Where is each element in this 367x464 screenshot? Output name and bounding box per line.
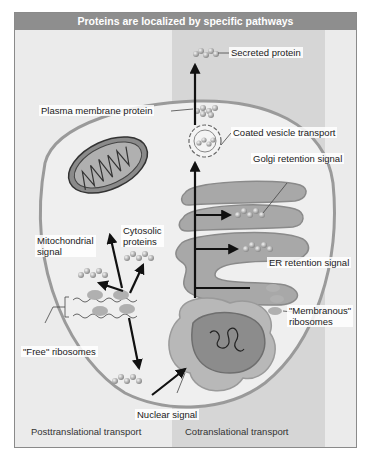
label-membranous-line1: "Membranous"	[289, 305, 351, 316]
label-nuclear-signal: Nuclear signal	[135, 409, 199, 420]
figure-frame: Proteins are localized by specific pathw…	[14, 12, 357, 448]
label-mitochondrial-signal: Mitochondrial signal	[35, 235, 96, 257]
label-mitochondrial-line2: signal	[37, 246, 94, 257]
label-membranous-ribosomes: "Membranous" ribosomes	[287, 305, 353, 327]
label-secreted-protein: Secreted protein	[229, 47, 303, 58]
label-plasma-membrane-protein: Plasma membrane protein	[39, 105, 154, 116]
footer-cotranslational: Cotranslational transport	[185, 426, 289, 437]
label-membranous-line2: ribosomes	[289, 316, 351, 327]
label-mitochondrial-line1: Mitochondrial	[37, 235, 94, 246]
label-er-retention-signal: ER retention signal	[267, 257, 351, 268]
label-cytosolic-line1: Cytosolic	[123, 225, 162, 236]
label-free-ribosomes: "Free" ribosomes	[21, 346, 98, 357]
cell-diagram	[15, 13, 357, 448]
label-coated-vesicle-transport: Coated vesicle transport	[231, 127, 337, 138]
label-golgi-retention-signal: Golgi retention signal	[251, 153, 344, 164]
footer-posttranslational: Posttranslational transport	[31, 426, 141, 437]
label-cytosolic-line2: proteins	[123, 236, 162, 247]
figure-title: Proteins are localized by specific pathw…	[15, 13, 356, 30]
label-cytosolic-proteins: Cytosolic proteins	[121, 225, 164, 247]
